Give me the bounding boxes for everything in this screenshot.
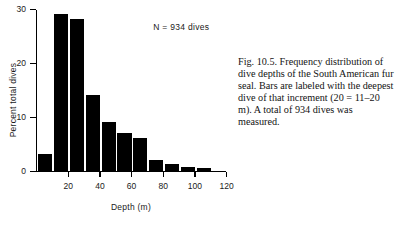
bar-60 [117, 133, 131, 171]
chart-axes: 0102030 20406080100120 N = 934 dives [36, 10, 226, 172]
y-tick-label-10: 10 [17, 112, 30, 122]
x-tick-40: 40 [99, 172, 100, 177]
bar-80 [149, 160, 163, 171]
histogram-bars [37, 10, 226, 171]
y-tick-0: 0 [30, 171, 36, 172]
bar-90 [165, 164, 179, 171]
x-tick-label-20: 20 [64, 177, 73, 191]
bar-10 [38, 154, 52, 170]
y-tick-label-30: 30 [17, 4, 30, 14]
y-tick-label-20: 20 [17, 58, 30, 68]
x-tick-label-40: 40 [95, 177, 104, 191]
x-tick-120: 120 [226, 172, 227, 177]
bar-20 [54, 14, 68, 171]
x-tick-label-120: 120 [220, 177, 234, 191]
x-tick-60: 60 [131, 172, 132, 177]
figure-caption: Fig. 10.5. Frequency distribution of div… [238, 56, 394, 127]
x-axis-title: Depth (m) [36, 202, 226, 212]
y-tick-10: 10 [30, 117, 36, 118]
y-tick-30: 30 [30, 9, 36, 10]
bar-50 [102, 122, 116, 171]
bar-40 [86, 95, 100, 171]
y-tick-20: 20 [30, 63, 36, 64]
chart-plot-area: Percent total dives 0102030 204060801001… [0, 0, 240, 225]
x-tick-label-80: 80 [159, 177, 168, 191]
figure: Percent total dives 0102030 204060801001… [0, 0, 395, 225]
x-tick-20: 20 [68, 172, 69, 177]
bar-30 [70, 19, 84, 170]
bar-70 [133, 138, 147, 170]
bar-100 [181, 167, 195, 171]
x-tick-100: 100 [194, 172, 195, 177]
x-tick-label-60: 60 [127, 177, 136, 191]
x-tick-label-100: 100 [188, 177, 202, 191]
y-tick-label-0: 0 [21, 166, 30, 176]
x-tick-80: 80 [163, 172, 164, 177]
sample-size-annotation: N = 934 dives [153, 22, 209, 32]
bar-110 [197, 168, 211, 170]
